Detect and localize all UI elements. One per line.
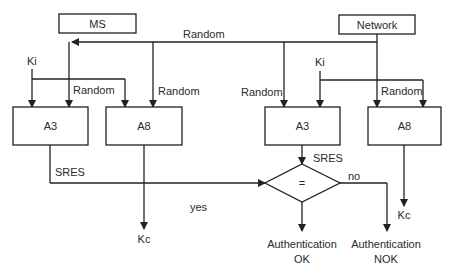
random-net-a3-label: Random — [241, 86, 283, 98]
ms-label: MS — [89, 18, 106, 30]
sres-net-edge: SRES — [302, 145, 343, 164]
no-label: no — [348, 170, 360, 182]
compare-label: = — [299, 177, 305, 189]
random-to-ms-a8-edge: Random — [153, 42, 200, 107]
sres-ms-edge: SRES — [50, 145, 265, 183]
auth-nok-line1: Authentication — [351, 238, 421, 250]
net-kc-label: Kc — [398, 209, 411, 221]
auth-nok-line2: NOK — [374, 253, 399, 265]
ms-a3-label: A3 — [44, 120, 57, 132]
ms-a8-label: A8 — [137, 120, 150, 132]
gsm-authentication-diagram: MS Network Random Random Random Ki A3 A8 — [0, 0, 451, 276]
ms-a3-node: A3 — [13, 107, 88, 145]
random-top-label: Random — [183, 28, 225, 40]
network-node: Network — [339, 15, 415, 34]
compare-node: = — [265, 164, 340, 202]
random-to-ms-a3-edge: Random — [69, 42, 115, 107]
ki-ms-edge: Ki — [27, 55, 125, 107]
auth-ok-line1: Authentication — [267, 238, 337, 250]
ms-a8-node: A8 — [106, 107, 182, 145]
yes-label: yes — [190, 201, 208, 213]
ki-net-edge: Ki — [315, 56, 423, 107]
ms-kc-label: Kc — [138, 233, 151, 245]
auth-ok-line2: OK — [294, 253, 311, 265]
random-to-net-a8-edge: Random — [377, 42, 423, 107]
net-a8-label: A8 — [398, 120, 411, 132]
ki-ms-label: Ki — [27, 55, 37, 67]
ms-node: MS — [59, 14, 136, 33]
random-ms-a3-label: Random — [73, 84, 115, 96]
net-kc-edge: Kc — [398, 145, 411, 221]
net-a8-node: A8 — [368, 107, 441, 145]
random-net-a8-label: Random — [381, 85, 423, 97]
ms-kc-edge: Kc — [138, 145, 151, 245]
ki-net-label: Ki — [315, 56, 325, 68]
auth-nok-node: Authentication NOK — [351, 238, 421, 265]
auth-ok-node: Authentication OK — [267, 238, 337, 265]
network-label: Network — [357, 19, 398, 31]
random-to-net-a3-edge: Random — [241, 42, 284, 107]
net-a3-label: A3 — [296, 120, 309, 132]
sres-ms-label: SRES — [55, 166, 85, 178]
net-a3-node: A3 — [265, 107, 340, 145]
sres-net-label: SRES — [313, 152, 343, 164]
auth-nok-edge: no — [340, 170, 387, 231]
random-ms-a8-label: Random — [158, 85, 200, 97]
